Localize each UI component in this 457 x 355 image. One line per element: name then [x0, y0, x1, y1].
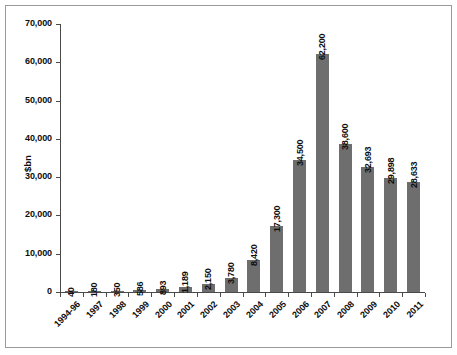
bar-value-label: 38,600: [340, 124, 350, 150]
bar-value-label: 3,780: [226, 262, 236, 284]
x-axis-tick: [311, 293, 312, 297]
bar-value-label: 350: [112, 282, 122, 296]
x-axis-tick: [379, 293, 380, 297]
x-axis-tick: [243, 293, 244, 297]
y-axis-tick-label: 30,000: [0, 171, 52, 181]
bar-value-label: 1,189: [180, 272, 190, 294]
bar-value-label: 62,200: [317, 34, 327, 60]
bar: [361, 167, 374, 292]
plot-area: $bn 010,00020,00030,00040,00050,00060,00…: [0, 0, 457, 355]
bar-value-label: 17,300: [272, 205, 282, 231]
y-axis-line: [60, 24, 61, 293]
y-axis-tick: [56, 62, 60, 63]
x-axis-tick: [151, 293, 152, 297]
x-axis-tick: [128, 293, 129, 297]
x-axis-tick: [334, 293, 335, 297]
x-axis-tick: [83, 293, 84, 297]
y-axis-tick: [56, 101, 60, 102]
y-axis-tick-label: 70,000: [0, 18, 52, 28]
y-axis-tick: [56, 215, 60, 216]
x-axis-tick: [425, 293, 426, 297]
bar-value-label: 40: [66, 287, 76, 297]
x-axis-tick: [174, 293, 175, 297]
y-axis-tick-label: 60,000: [0, 56, 52, 66]
y-axis-tick-label: 40,000: [0, 133, 52, 143]
bar: [316, 54, 329, 292]
y-axis-tick-label: 0: [0, 286, 52, 296]
x-axis-tick: [288, 293, 289, 297]
y-axis-tick: [56, 254, 60, 255]
bar: [270, 226, 283, 292]
bar-value-label: 8,420: [249, 244, 259, 266]
x-axis-tick: [402, 293, 403, 297]
bar: [339, 144, 352, 292]
bar-value-label: 180: [89, 283, 99, 297]
x-axis-tick: [60, 293, 61, 297]
bar-value-label: 32,693: [363, 147, 373, 173]
bar: [384, 178, 397, 292]
x-axis-tick: [106, 293, 107, 297]
x-axis-tick: [197, 293, 198, 297]
bar-value-label: 29,898: [386, 157, 396, 183]
x-axis-tick: [265, 293, 266, 297]
y-axis-tick: [56, 24, 60, 25]
bar-value-label: 893: [158, 280, 168, 294]
bar-chart-figure: $bn 010,00020,00030,00040,00050,00060,00…: [0, 0, 457, 355]
y-axis-tick-label: 10,000: [0, 248, 52, 258]
y-axis-tick-label: 20,000: [0, 209, 52, 219]
x-axis-tick: [220, 293, 221, 297]
bar-value-label: 586: [135, 281, 145, 295]
y-axis-tick: [56, 177, 60, 178]
bar-value-label: 2,150: [203, 268, 213, 290]
bar: [407, 182, 420, 292]
bar-value-label: 28,633: [409, 162, 419, 188]
x-axis-tick: [357, 293, 358, 297]
y-axis-tick-label: 50,000: [0, 95, 52, 105]
bar: [293, 160, 306, 292]
y-axis-title: $bn: [22, 155, 33, 172]
y-axis-tick: [56, 139, 60, 140]
bar-value-label: 34,500: [295, 140, 305, 166]
